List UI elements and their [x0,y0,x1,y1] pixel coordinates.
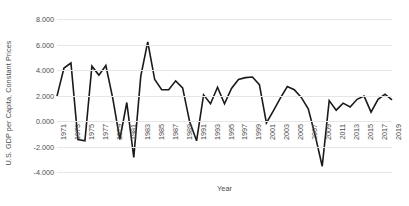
gridline [57,45,392,46]
x-axis-title: Year [57,184,392,193]
gdp-per-capita-line-chart: U.S. GDP per Capita, Constant Prices 8.0… [0,0,409,206]
x-tick-label: 1985 [158,124,165,140]
x-tick-label: 1971 [60,124,67,140]
x-tick-label: 1973 [74,124,81,140]
x-axis-tick-labels: 1971197319751977197919811983198519871989… [57,124,392,184]
x-tick-label: 1979 [116,124,123,140]
y-tick-label: 8.000 [20,15,54,24]
x-tick-label: 2007 [311,124,318,140]
x-tick-label: 1999 [255,124,262,140]
y-tick-label: 2.000 [20,91,54,100]
x-tick-label: 2019 [395,124,402,140]
x-tick-label: 2003 [283,124,290,140]
y-tick-label: -4.000 [20,168,54,177]
x-tick-label: 1997 [241,124,248,140]
y-tick-label: 0.000 [20,117,54,126]
x-tick-label: 2017 [381,124,388,140]
x-tick-label: 1995 [228,124,235,140]
x-tick-label: 1991 [200,124,207,140]
y-axis-title: U.S. GDP per Capita, Constant Prices [0,0,16,206]
x-tick-label: 1975 [88,124,95,140]
x-tick-label: 1987 [172,124,179,140]
y-tick-label: 6.000 [20,40,54,49]
x-tick-label: 1993 [214,124,221,140]
gridline [57,96,392,97]
gridline [57,70,392,71]
y-tick-label: -2.000 [20,142,54,151]
x-tick-label: 2005 [297,124,304,140]
x-tick-label: 1981 [130,124,137,140]
x-tick-label: 2011 [339,124,346,139]
x-tick-label: 2009 [325,124,332,140]
y-axis-tick-labels: 8.0006.0004.0002.0000.000-2.000-4.000 [16,0,54,206]
x-tick-label: 2015 [367,124,374,140]
x-tick-label: 1977 [102,124,109,140]
x-tick-label: 2001 [269,124,276,140]
gridline [57,121,392,122]
gridline [57,19,392,20]
x-tick-label: 1983 [144,124,151,140]
x-tick-label: 2013 [353,124,360,140]
y-tick-label: 4.000 [20,66,54,75]
x-tick-label: 1989 [186,124,193,140]
